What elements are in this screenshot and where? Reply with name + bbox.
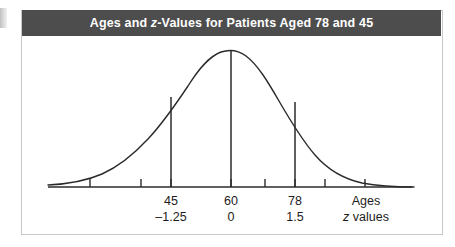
plot-svg (22, 36, 441, 196)
ages-label-row: 45 60 78 Ages (22, 193, 441, 209)
axis-ticks (90, 179, 365, 187)
zvalues-row-title: z values (343, 209, 389, 225)
ages-row-title: Ages (352, 193, 381, 209)
figure-title-bar: Ages and z-Values for Patients Aged 78 a… (22, 10, 441, 36)
age-value-60: 60 (224, 193, 238, 209)
age-value-45: 45 (164, 193, 178, 209)
z-value-minus-1-25: –1.25 (155, 209, 186, 225)
figure-screenshot: Ages and z-Values for Patients Aged 78 a… (0, 0, 455, 247)
title-suffix: -Values for Patients Aged 78 and 45 (157, 16, 373, 30)
zvalues-rest: values (349, 210, 389, 224)
z-value-1-5: 1.5 (286, 209, 303, 225)
z-value-0: 0 (228, 209, 235, 225)
title-prefix: Ages and (90, 16, 151, 30)
normal-curve-plot (22, 36, 441, 196)
zvalues-label-row: –1.25 0 1.5 z values (22, 209, 441, 225)
figure-title: Ages and z-Values for Patients Aged 78 a… (90, 17, 373, 30)
page-edge-artifact (0, 8, 7, 28)
age-value-78: 78 (288, 193, 302, 209)
